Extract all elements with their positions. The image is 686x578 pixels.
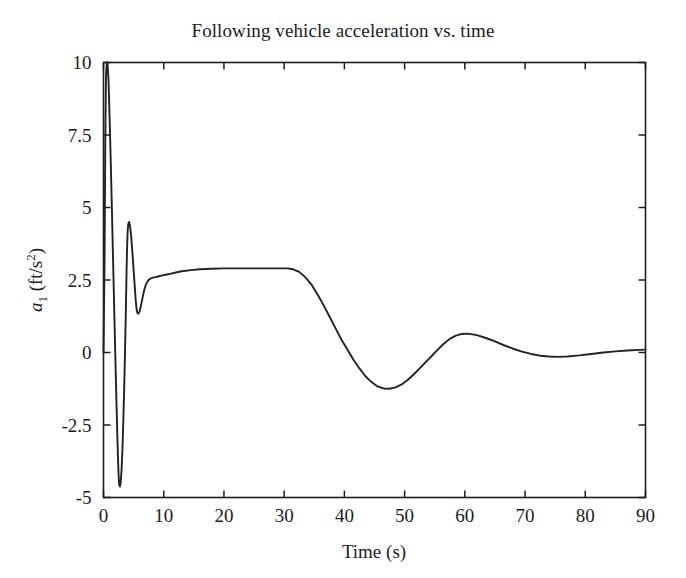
x-tick-label: 40 (335, 505, 354, 526)
plot-area: -5-2.502.557.510 0102030405060708090 Tim… (0, 0, 686, 578)
chart-figure: Following vehicle acceleration vs. time … (0, 0, 686, 578)
x-axis-title: Time (s) (342, 541, 406, 563)
x-tick-label: 30 (275, 505, 294, 526)
x-tick-label: 70 (516, 505, 535, 526)
x-tick-label: 0 (99, 505, 109, 526)
y-tick-label: 7.5 (68, 125, 92, 146)
plot-frame (104, 63, 646, 498)
y-tick-label: -5 (76, 487, 92, 508)
y-tick-label: 5 (82, 197, 92, 218)
svg-text:a1 (ft/s2): a1 (ft/s2) (23, 248, 50, 312)
x-tick-label: 20 (214, 505, 233, 526)
y-tick-label: 10 (73, 52, 92, 73)
x-tick-label: 90 (636, 505, 655, 526)
x-tick-label: 60 (455, 505, 474, 526)
x-axis-ticks: 0102030405060708090 (99, 63, 655, 526)
x-tick-label: 10 (154, 505, 173, 526)
data-series-line (104, 63, 646, 487)
y-tick-label: 2.5 (68, 270, 92, 291)
x-tick-label: 50 (395, 505, 414, 526)
x-tick-label: 80 (576, 505, 595, 526)
y-tick-label: 0 (82, 342, 92, 363)
y-tick-label: -2.5 (61, 415, 91, 436)
y-axis-title: a1 (ft/s2) (23, 248, 50, 312)
